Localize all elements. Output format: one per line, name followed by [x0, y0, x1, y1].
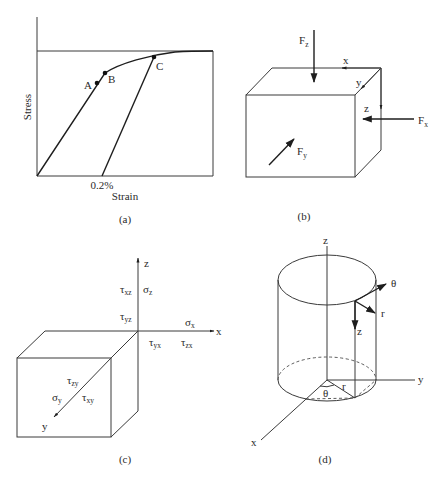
tau-xy-label: τxy — [82, 391, 94, 405]
y-axis-label-b: y — [356, 76, 362, 88]
panel-d-cylindrical-coords: z y x θ r θ r z (d) — [251, 234, 424, 466]
force-fy-arrow — [269, 139, 294, 165]
x-axis-label: Strain — [112, 190, 139, 202]
z-label-d: z — [323, 234, 328, 246]
r-label: r — [381, 307, 385, 319]
cube-front-face-c — [17, 358, 111, 437]
sigma-x-label: σx — [185, 316, 195, 330]
z-axis-label-b: z — [364, 102, 369, 114]
point-a-marker — [95, 81, 100, 86]
tau-yx-label: τyx — [149, 336, 161, 350]
tau-yz-label: τyz — [120, 310, 132, 324]
cube-front-face — [246, 95, 355, 177]
y-label-c: y — [42, 420, 48, 432]
offset-label: 0.2% — [91, 179, 114, 191]
y-label-d: y — [418, 373, 424, 385]
z-local-label: z — [357, 325, 362, 337]
x-label-d: x — [251, 436, 257, 448]
y-direction-arrow — [361, 68, 381, 89]
point-b-label: B — [108, 73, 115, 85]
caption-a: (a) — [119, 213, 132, 226]
y-axis-label: Stress — [21, 94, 33, 120]
x-label-c: x — [216, 325, 222, 337]
caption-d: (d) — [319, 453, 332, 466]
z-label-c: z — [144, 257, 149, 269]
point-b-marker — [103, 71, 108, 76]
panel-a-stress-strain: A B C Stress 0.2% Strain (a) — [21, 17, 213, 226]
figure: A B C Stress 0.2% Strain (a) x y z Fz Fx… — [0, 0, 441, 485]
tau-zx-label: τzx — [181, 336, 193, 350]
force-fz-label: Fz — [299, 34, 309, 49]
x-axis-label-b: x — [343, 54, 349, 66]
theta-base-label: θ — [323, 387, 328, 399]
r-direction-arrow — [355, 301, 375, 313]
x-axis-d — [261, 380, 327, 440]
r-base-label: r — [342, 380, 346, 392]
theta-label: θ — [391, 277, 396, 289]
tau-zy-label: τzy — [67, 374, 79, 388]
caption-b: (b) — [298, 210, 311, 223]
radius-line — [327, 380, 355, 398]
theta-direction-arrow — [355, 284, 386, 301]
stress-strain-curve — [37, 51, 213, 176]
force-fx-label: Fx — [418, 114, 428, 129]
sigma-z-label: σz — [143, 283, 153, 297]
caption-c: (c) — [119, 453, 132, 466]
y-axis-c — [54, 358, 111, 417]
point-c-label: C — [156, 60, 163, 72]
tau-xz-label: τxz — [120, 283, 132, 297]
force-fy-label: Fy — [297, 145, 307, 160]
sigma-y-label: σy — [52, 391, 62, 405]
panel-b-force-cube: x y z Fz Fx Fy (b) — [246, 30, 428, 223]
point-c-marker — [152, 55, 157, 60]
point-a-label: A — [84, 79, 92, 91]
panel-c-stress-components: z x y τxz σz τyz σx τyx τzx τzy σy τxy (… — [17, 257, 222, 466]
